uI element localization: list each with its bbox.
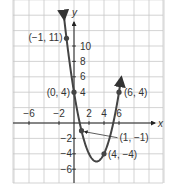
data-point [101,151,106,156]
y-tick-label: −2 [61,133,73,144]
point-label: (6, 4) [124,87,147,98]
y-tick-label: 4 [80,87,86,98]
x-tick-label: −6 [23,108,35,119]
x-tick-label: 6 [116,108,122,119]
data-point [71,90,76,95]
point-label: (4, −4) [108,149,137,160]
x-axis-label: x [157,118,164,129]
y-axis-label: y [71,7,78,18]
data-point [79,128,84,133]
y-tick-label: −4 [61,148,73,159]
leader-line [85,132,118,138]
x-tick-label: 4 [101,108,107,119]
point-label: (0, 4) [47,87,70,98]
data-point [116,90,121,95]
y-tick-label: 6 [80,71,86,82]
point-label: (−1, 11) [29,32,63,43]
y-tick-label: 8 [80,56,86,67]
x-tick-label: −2 [53,108,65,119]
data-point [64,36,69,41]
graph: xy−6−224610864−2−4−6(−1, 11)(0, 4)(1, −1… [0,0,176,189]
x-tick-label: 2 [86,108,92,119]
y-tick-label: 10 [80,41,92,52]
point-label: (1, −1) [120,132,149,143]
y-tick-label: −6 [61,164,73,175]
